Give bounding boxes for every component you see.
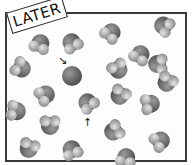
molecule (32, 82, 58, 108)
molecule (105, 56, 131, 82)
arrow-down-right-icon: ↘ (58, 55, 67, 66)
molecule (147, 128, 173, 154)
molecule (75, 90, 101, 116)
molecule (107, 82, 133, 108)
molecule (101, 118, 127, 144)
molecule (27, 31, 53, 57)
molecule (98, 20, 124, 46)
molecule (8, 55, 34, 81)
molecule (16, 135, 42, 161)
molecule (151, 13, 177, 39)
molecule (113, 145, 139, 165)
molecule (59, 137, 85, 163)
molecule (137, 91, 163, 117)
molecule (59, 30, 85, 56)
arrow-up-icon: ↑ (83, 117, 92, 128)
molecule (3, 98, 29, 124)
